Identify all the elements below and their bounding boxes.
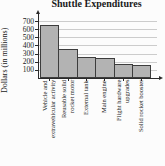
- x-label-4: Flight hardware upgrades: [115, 80, 131, 164]
- x-label-0: Vehicle and extravehicular activity: [41, 80, 57, 164]
- bar-3: [95, 58, 114, 78]
- y-tick-label-600: 600: [20, 26, 34, 33]
- bar-4: [114, 64, 133, 78]
- bar-2: [77, 57, 96, 78]
- bar-chart-figure: Shuttle Expenditures Dollars (in million…: [0, 0, 165, 166]
- bar-0: [40, 25, 59, 78]
- plot-area: 100200300400500600700Vehicle and extrave…: [0, 0, 165, 166]
- y-tick-label-300: 300: [20, 50, 34, 57]
- x-label-2: External tank: [82, 80, 90, 164]
- y-axis-line: [38, 14, 39, 79]
- y-axis-arrow: [36, 10, 40, 14]
- x-label-5: Solid rocket booster: [137, 80, 145, 164]
- y-tick-label-100: 100: [20, 66, 34, 73]
- y-tick-label-700: 700: [20, 18, 34, 25]
- x-axis-arrow: [159, 76, 163, 80]
- bar-5: [132, 65, 151, 78]
- bar-1: [58, 49, 77, 78]
- x-axis-line: [38, 78, 159, 79]
- y-tick-label-200: 200: [20, 58, 34, 65]
- x-label-3: Main engine: [100, 80, 108, 164]
- x-label-1: Reusable solid rocket motor: [60, 80, 76, 164]
- gridline-700: [39, 21, 157, 22]
- y-tick-label-400: 400: [20, 42, 34, 49]
- y-tick-label-500: 500: [20, 34, 34, 41]
